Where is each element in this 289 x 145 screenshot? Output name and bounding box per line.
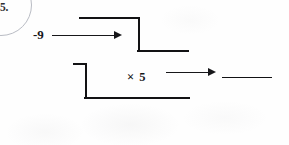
upper-box-bottom-edge bbox=[137, 50, 189, 52]
upper-box-right-drop-edge bbox=[138, 17, 140, 50]
right-arrow-icon bbox=[114, 31, 122, 39]
lower-box-bottom-edge bbox=[84, 97, 190, 99]
arrow-two-shaft bbox=[166, 72, 209, 73]
operation-label: × 5 bbox=[127, 71, 147, 84]
answer-blank-line[interactable] bbox=[222, 77, 272, 78]
input-value-label: -9 bbox=[33, 28, 44, 41]
worksheet-page: 5. -9 × 5 bbox=[0, 0, 289, 145]
right-arrow-icon bbox=[208, 68, 216, 76]
question-number-label: 5. bbox=[0, 2, 12, 14]
upper-box-top-edge bbox=[79, 17, 139, 19]
lower-box-left-drop-edge bbox=[85, 63, 87, 98]
arrow-one-shaft bbox=[52, 35, 115, 36]
